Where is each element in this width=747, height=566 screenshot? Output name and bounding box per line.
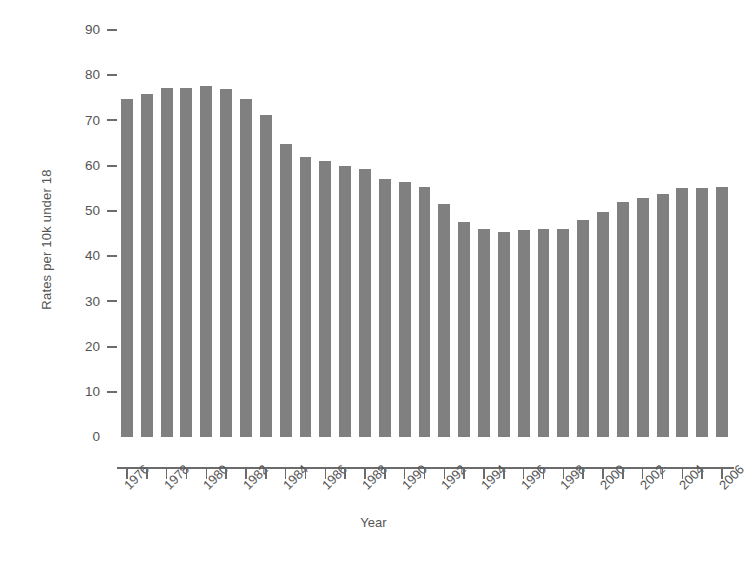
y-tick-label: 80 [85, 68, 100, 82]
bar [419, 187, 431, 437]
y-tick-mark [107, 255, 117, 257]
y-tick-label: 60 [85, 159, 100, 173]
y-tick-label: 90 [85, 23, 100, 37]
x-tick-mark [225, 468, 227, 479]
x-axis-title: Year [0, 515, 747, 530]
y-tick-mark [107, 74, 117, 76]
x-tick-mark [701, 468, 703, 479]
bar [220, 89, 232, 437]
bar [280, 144, 292, 437]
bar [498, 232, 510, 437]
bar [478, 229, 490, 437]
bar [637, 198, 649, 437]
x-tick-mark [265, 468, 267, 479]
bar [161, 88, 173, 437]
bar [438, 204, 450, 437]
bar [518, 230, 530, 437]
bar [180, 88, 192, 437]
y-tick-label: 70 [85, 114, 100, 128]
y-tick-mark [107, 29, 117, 31]
bar [319, 161, 331, 437]
y-tick-label: 20 [85, 340, 100, 354]
bar [141, 94, 153, 437]
bar [577, 220, 589, 437]
y-tick-label: 10 [85, 385, 100, 399]
y-tick-label: 30 [85, 295, 100, 309]
bar-series [117, 30, 732, 437]
y-tick-label: 50 [85, 204, 100, 218]
bar [240, 99, 252, 437]
x-tick-mark [344, 468, 346, 479]
bar [696, 188, 708, 437]
x-tick-mark [503, 468, 505, 479]
x-tick-mark [622, 468, 624, 479]
y-tick-mark [107, 300, 117, 302]
bar [657, 194, 669, 437]
bar [617, 202, 629, 437]
x-tick-mark [662, 468, 664, 479]
y-tick-label: 0 [92, 430, 100, 444]
bar [121, 99, 133, 437]
bar [716, 187, 728, 437]
bar [359, 169, 371, 437]
y-tick-mark [107, 346, 117, 348]
bar [597, 212, 609, 437]
bar [538, 229, 550, 437]
x-tick-mark [186, 468, 188, 479]
bar [557, 229, 569, 437]
bar [379, 179, 391, 437]
bar [399, 182, 411, 437]
bar [200, 86, 212, 437]
bar [260, 115, 272, 437]
x-tick-mark [463, 468, 465, 479]
y-tick-mark [107, 119, 117, 121]
x-tick-mark [384, 468, 386, 479]
x-tick-mark [582, 468, 584, 479]
bar [458, 222, 470, 437]
chart-figure: Rates per 10k under 18 90807060504030201… [0, 0, 747, 566]
y-tick-mark [107, 436, 117, 438]
y-tick-mark [107, 165, 117, 167]
bar [339, 166, 351, 437]
x-tick-mark [543, 468, 545, 479]
y-tick-mark [107, 391, 117, 393]
x-tick-mark [305, 468, 307, 479]
y-tick-mark [107, 210, 117, 212]
plot-area: 9080706050403020100 19761978198019821984… [117, 30, 732, 437]
bar [300, 157, 312, 437]
x-tick-mark [146, 468, 148, 479]
x-tick-mark [424, 468, 426, 479]
y-axis-title: Rates per 10k under 18 [39, 130, 54, 350]
y-tick-label: 40 [85, 249, 100, 263]
bar [676, 188, 688, 437]
